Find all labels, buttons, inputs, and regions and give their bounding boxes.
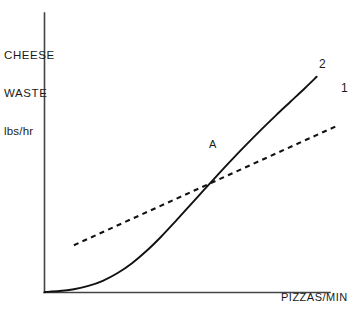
- y-axis-label-line-2: WASTE: [4, 87, 55, 100]
- y-axis-label-units: lbs/hr: [4, 125, 55, 138]
- data-curve-2-solid: [45, 77, 317, 292]
- curve-1-label: 1: [341, 81, 348, 95]
- y-axis-label: CHEESE WASTE lbs/hr: [4, 24, 55, 163]
- curve-2-label: 2: [319, 57, 326, 71]
- x-axis-label: PIZZAS/MIN: [281, 291, 348, 303]
- point-a-label: A: [209, 138, 217, 150]
- data-curve-1-dashed: [74, 126, 337, 245]
- chart-figure: CHEESE WASTE lbs/hr PIZZAS/MIN 2 1 A: [0, 0, 358, 321]
- y-axis-label-line-1: CHEESE: [4, 49, 55, 62]
